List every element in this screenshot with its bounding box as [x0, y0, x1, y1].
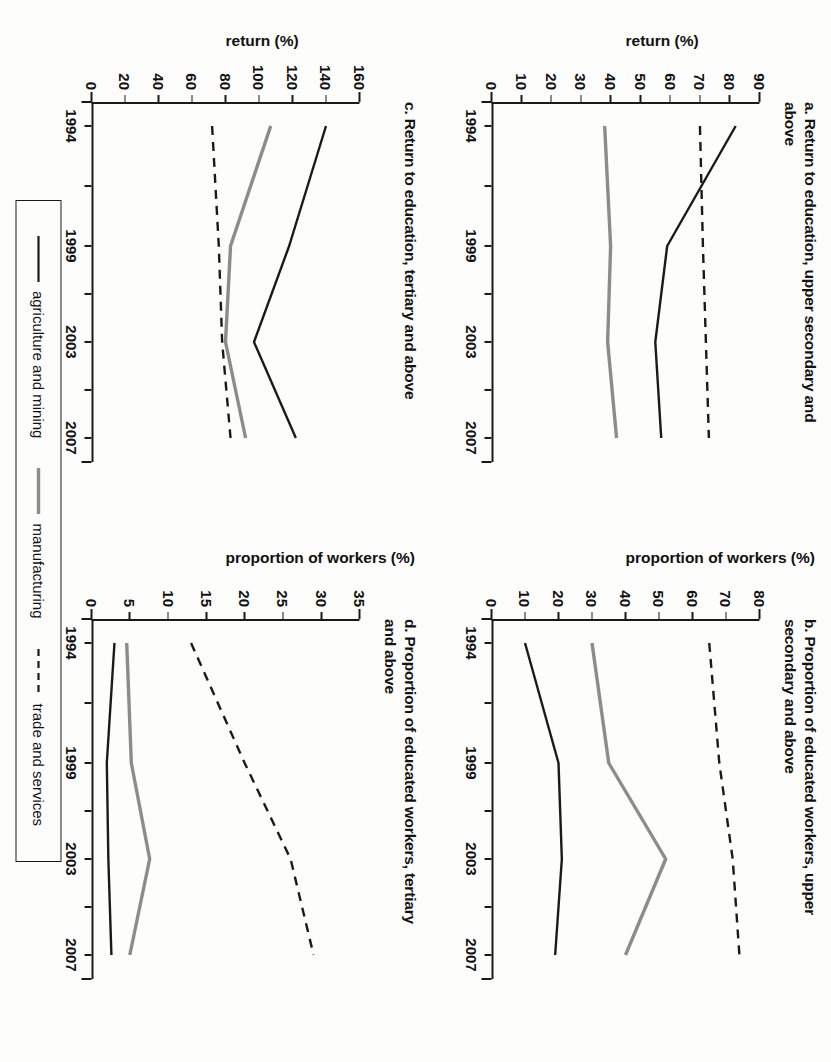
- panel-d-x-tick-label: 1999: [62, 746, 79, 779]
- panel-c-series-svg: [91, 102, 359, 462]
- panel-a-x-axis-cap: [481, 461, 491, 463]
- series-line-agriculture-and-mining: [253, 126, 325, 438]
- panel-c-y-tick: [124, 95, 126, 102]
- panel-a-y-tick: [580, 95, 582, 102]
- panel-b-plot-area: 010203040506070801994199920032007: [491, 619, 759, 979]
- panel-a-y-tick: [758, 92, 760, 102]
- panel-d-y-tick: [282, 612, 284, 619]
- panel-c-x-tick: [84, 437, 91, 439]
- panel-c-x-tick: [84, 341, 91, 343]
- panel-b-y-tick-label: 70: [717, 590, 734, 607]
- panel-b-series-svg: [491, 619, 759, 979]
- panel-d-y-tick: [358, 609, 360, 619]
- panel-b-y-tick-label: 60: [684, 590, 701, 607]
- panel-c-x-tick: [84, 245, 91, 247]
- panel-d-y-tick: [167, 612, 169, 619]
- series-line-trade-and-services: [709, 643, 739, 955]
- panel-a-y-tick: [520, 95, 522, 102]
- legend-line-swatch-icon: [33, 236, 43, 282]
- panel-c-x-tick-label: 1999: [62, 229, 79, 262]
- panel-d-y-tick-label: 20: [236, 590, 253, 607]
- panel-b-x-axis-cap: [481, 618, 491, 620]
- panel-c-y-tick: [325, 95, 327, 102]
- panel-a-y-tick: [699, 95, 701, 102]
- panel-b-x-tick: [484, 702, 491, 704]
- panel-a-x-tick: [484, 389, 491, 391]
- chart-panel-c: c. Return to education, tertiary and abo…: [31, 28, 421, 498]
- panel-d-x-tick: [84, 702, 91, 704]
- panel-c-y-tick-label: 100: [250, 65, 267, 90]
- panel-d-y-tick-label: 0: [83, 599, 100, 607]
- panel-c-y-tick-label: 60: [183, 73, 200, 90]
- panel-b-x-tick-label: 1999: [462, 746, 479, 779]
- panel-c-x-axis-cap: [81, 101, 91, 103]
- panel-c-y-tick-label: 0: [83, 82, 100, 90]
- series-line-trade-and-services: [191, 643, 314, 955]
- panel-c-y-tick-label: 120: [284, 65, 301, 90]
- panel-d-x-tick: [84, 954, 91, 956]
- series-line-agriculture-and-mining: [525, 643, 562, 955]
- legend-item: manufacturing: [30, 468, 47, 618]
- panel-b-y-tick: [524, 612, 526, 619]
- panel-a-y-tick-label: 0: [483, 82, 500, 90]
- panel-a-y-tick-label: 50: [631, 73, 648, 90]
- panel-a-x-axis-cap: [481, 101, 491, 103]
- panel-a-title: a. Return to education, upper secondary …: [778, 102, 819, 432]
- panel-d-x-axis-cap: [81, 978, 91, 980]
- panel-c-x-tick: [84, 125, 91, 127]
- panel-d-x-axis-cap: [81, 618, 91, 620]
- panel-c-x-tick: [84, 389, 91, 391]
- panel-b-y-tick-label: 20: [550, 590, 567, 607]
- panel-a-y-tick-label: 60: [661, 73, 678, 90]
- chart-legend: agriculture and miningmanufacturingtrade…: [15, 200, 61, 862]
- panel-a-y-tick: [669, 95, 671, 102]
- panel-a-y-tick: [728, 95, 730, 102]
- panel-d-x-tick: [84, 906, 91, 908]
- panel-a-y-tick-label: 40: [602, 73, 619, 90]
- panel-d-y-tick-label: 15: [197, 590, 214, 607]
- panel-d-plot-area: 051015202530351994199920032007: [91, 619, 359, 979]
- rotated-figure-wrapper: a. Return to education, upper secondary …: [0, 0, 831, 1062]
- panel-d-y-tick-label: 35: [351, 590, 368, 607]
- legend-label: trade and services: [30, 704, 47, 827]
- panel-c-x-tick-label: 1994: [62, 109, 79, 142]
- panel-b-x-tick: [484, 762, 491, 764]
- panel-b-y-tick: [758, 609, 760, 619]
- panel-a-y-tick: [609, 95, 611, 102]
- panel-a-x-tick: [484, 185, 491, 187]
- panel-a-y-tick: [639, 95, 641, 102]
- panel-b-y-tick: [691, 612, 693, 619]
- panel-d-x-tick-label: 2003: [62, 842, 79, 875]
- chart-panel-b: b. Proportion of educated workers, upper…: [431, 545, 821, 1015]
- panel-d-y-tick-label: 30: [312, 590, 329, 607]
- panel-d-title: d. Proportion of educated workers, terti…: [378, 619, 419, 949]
- legend-line-swatch-icon: [33, 649, 43, 695]
- panel-a-y-tick-label: 20: [542, 73, 559, 90]
- panel-c-y-tick: [224, 95, 226, 102]
- panel-d-x-tick: [84, 762, 91, 764]
- panel-d-x-tick: [84, 810, 91, 812]
- panel-a-y-tick-label: 70: [691, 73, 708, 90]
- panel-a-x-tick-label: 2007: [462, 421, 479, 454]
- series-line-manufacturing: [604, 126, 616, 438]
- panel-b-y-tick: [725, 612, 727, 619]
- panel-b-y-tick-label: 40: [617, 590, 634, 607]
- panel-a-x-tick: [484, 245, 491, 247]
- panel-b-x-tick-label: 1994: [462, 626, 479, 659]
- panel-c-y-tick: [291, 95, 293, 102]
- panel-c-y-axis-label: return (%): [225, 32, 298, 50]
- panel-d-y-tick: [129, 612, 131, 619]
- panel-d-y-tick-label: 5: [121, 599, 138, 607]
- panel-b-y-tick-label: 10: [516, 590, 533, 607]
- legend-item: trade and services: [30, 649, 47, 827]
- panel-d-y-tick-label: 10: [159, 590, 176, 607]
- panel-b-y-tick: [624, 612, 626, 619]
- panel-a-plot-area: 01020304050607080901994199920032007: [491, 102, 759, 462]
- legend-label: manufacturing: [30, 523, 47, 618]
- panel-b-x-tick: [484, 642, 491, 644]
- panel-c-y-tick: [358, 92, 360, 102]
- panel-a-y-tick-label: 10: [512, 73, 529, 90]
- panel-a-x-tick: [484, 341, 491, 343]
- panel-c-x-axis-cap: [81, 461, 91, 463]
- panel-b-y-tick: [557, 612, 559, 619]
